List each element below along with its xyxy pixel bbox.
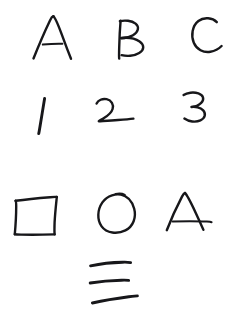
letter-c-glyph [192, 18, 221, 52]
digit-three-glyph [184, 93, 205, 122]
letter-b-glyph [119, 21, 143, 59]
letters-row [34, 16, 222, 59]
horizontal-stroke-glyph [92, 296, 137, 303]
horizontal-stroke-glyph [90, 280, 128, 283]
ink-surface [0, 0, 227, 321]
triangle-a-shape-glyph [167, 193, 212, 230]
letter-a-glyph [34, 16, 72, 59]
shapes-row [15, 193, 212, 235]
square-shape-glyph [15, 197, 57, 235]
digit-one-glyph [39, 98, 45, 133]
horizontal-stroke-glyph [91, 262, 131, 266]
handwriting-canvas [0, 0, 227, 321]
digit-two-glyph [97, 99, 134, 121]
strokes-row [90, 262, 137, 303]
circle-shape-glyph [98, 194, 135, 233]
digits-row [39, 93, 205, 134]
